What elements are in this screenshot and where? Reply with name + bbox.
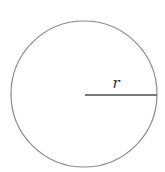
radius-label: r [112,74,120,92]
circle-diagram: r [0,0,165,172]
